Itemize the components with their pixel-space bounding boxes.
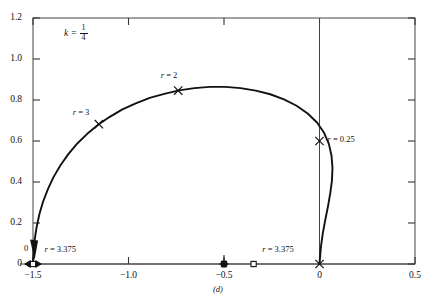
label-r2: r = 2 [161, 70, 178, 80]
y-tick-label-2: 0.4 [0, 176, 22, 186]
y-tick-label-1: 0.2 [0, 217, 22, 227]
x-tick-label-2: −0.5 [208, 270, 240, 280]
x-tick-label-4: 0.5 [399, 270, 431, 280]
label-r3375-mid: r = 3.375 [262, 244, 293, 254]
k-denominator: 4 [80, 34, 88, 42]
figure-caption: (d) [213, 284, 223, 294]
k-fraction: 1 4 [80, 24, 88, 42]
x-tick-label-3: 0 [304, 270, 336, 280]
y-tick-label-4: 0.8 [0, 94, 22, 104]
k-parameter-annotation: k = 1 4 [64, 24, 88, 42]
label-r3: r = 3 [73, 107, 90, 117]
zero-annotation: 0 [24, 243, 28, 253]
y-tick-label-5: 1.0 [0, 53, 22, 63]
x-tick-label-1: −1.0 [113, 270, 145, 280]
figure-container: 00.20.40.60.81.01.2 −1.5−1.0−0.500.5 r =… [0, 0, 442, 301]
k-numerator: 1 [80, 24, 88, 32]
label-r3375-left: r = 3.375 [44, 244, 75, 254]
label-r025: r = 0.25 [328, 134, 355, 144]
y-tick-label-3: 0.6 [0, 135, 22, 145]
y-tick-label-6: 1.2 [0, 12, 22, 22]
x-tick-label-0: −1.5 [17, 270, 49, 280]
y-tick-label-0: 0 [0, 258, 22, 268]
k-symbol: k [64, 28, 68, 38]
k-equals: = [71, 28, 76, 38]
plot-svg [0, 0, 442, 301]
axis-ticks [33, 18, 415, 264]
plot-frame [33, 18, 415, 264]
